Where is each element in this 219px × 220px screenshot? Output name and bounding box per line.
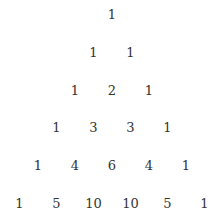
- triangle-entry: 5: [163, 196, 171, 211]
- triangle-entry: 3: [126, 120, 134, 135]
- triangle-entry: 1: [89, 44, 97, 59]
- triangle-entry: 6: [108, 158, 116, 173]
- triangle-entry: 4: [145, 158, 153, 173]
- triangle-entry: 3: [89, 120, 97, 135]
- triangle-entry: 10: [85, 196, 102, 211]
- triangle-entry: 1: [200, 196, 208, 211]
- triangle-entry: 1: [126, 44, 134, 59]
- triangle-entry: 1: [182, 158, 190, 173]
- triangle-entry: 1: [34, 158, 42, 173]
- triangle-entry: 1: [108, 7, 116, 22]
- triangle-entry: 1: [163, 120, 171, 135]
- triangle-entry: 1: [52, 120, 60, 135]
- triangle-entry: 4: [71, 158, 79, 173]
- triangle-entry: 1: [145, 82, 153, 97]
- triangle-entry: 10: [122, 196, 139, 211]
- triangle-entry: 2: [108, 82, 116, 97]
- triangle-entry: 1: [15, 196, 23, 211]
- triangle-entry: 1: [71, 82, 79, 97]
- triangle-entry: 5: [52, 196, 60, 211]
